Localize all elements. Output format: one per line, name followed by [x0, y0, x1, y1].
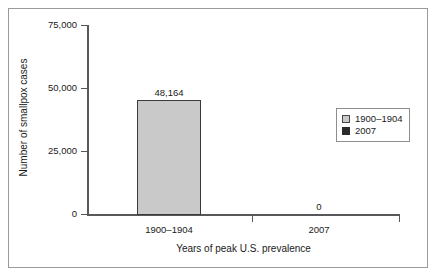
x-tick-label-2007: 2007 [308, 224, 329, 235]
x-axis-line [87, 214, 400, 216]
bar-1900-1904 [137, 100, 201, 215]
y-tick-label-0: 0 [17, 209, 77, 219]
y-tick-mark-50000 [81, 88, 88, 89]
legend-swatch-light-icon [342, 115, 350, 123]
legend-label-2007: 2007 [355, 126, 376, 136]
x-axis-title: Years of peak U.S. prevalence [87, 243, 400, 254]
x-tick-label-1900-1904: 1900–1904 [145, 224, 193, 235]
y-tick-mark-0 [81, 214, 88, 215]
legend-label-1900-1904: 1900–1904 [355, 114, 403, 124]
y-tick-mark-75000 [81, 25, 88, 26]
legend-item-1900-1904: 1900–1904 [342, 113, 403, 125]
bar-value-label-1900-1904: 48,164 [154, 87, 183, 98]
chart-figure: 75,000 50,000 25,000 0 48,164 0 1900–190… [0, 0, 440, 280]
y-tick-label-0-wrap: 0 [14, 209, 77, 219]
legend-item-2007: 2007 [342, 125, 403, 137]
y-axis-line [87, 25, 89, 216]
y-tick-label-75000-wrap: 75,000 [14, 20, 77, 30]
bar-value-label-2007: 0 [316, 201, 321, 212]
chart-legend: 1900–1904 2007 [336, 108, 410, 142]
y-tick-label-75000: 75,000 [17, 20, 77, 30]
x-tick-mark-end [399, 216, 400, 222]
x-tick-mark-mid [252, 216, 253, 222]
legend-swatch-dark-icon [342, 127, 350, 135]
plot-area: 75,000 50,000 25,000 0 48,164 0 1900–190… [0, 0, 440, 280]
y-axis-title: Number of smallpox cases [18, 38, 29, 198]
y-tick-mark-25000 [81, 151, 88, 152]
